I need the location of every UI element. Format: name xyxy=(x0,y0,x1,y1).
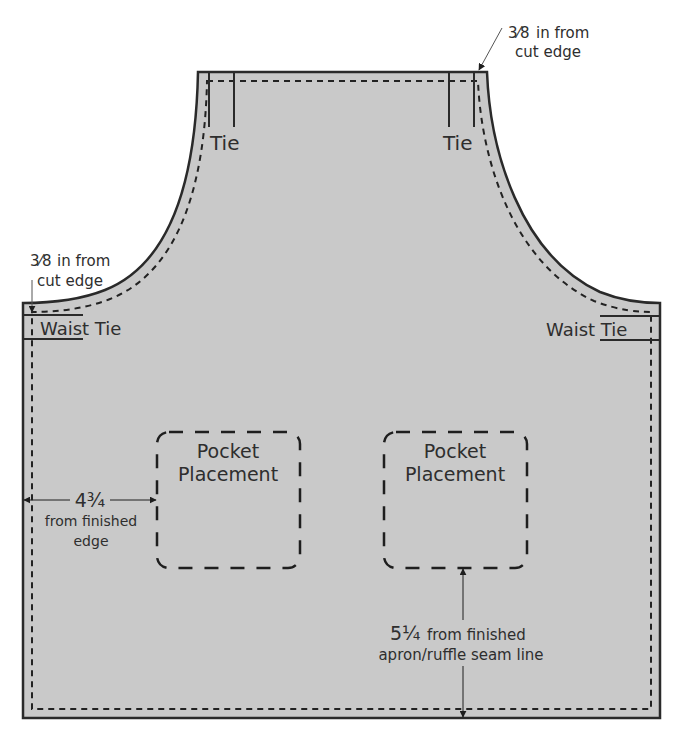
waist-tie-left-label: Waist Tie xyxy=(40,318,121,339)
seam-arrow-top-right xyxy=(479,28,502,70)
seam-fraction-top-right: 3⁄8 xyxy=(508,24,530,42)
side-measure-line2: edge xyxy=(74,533,109,549)
seam-fraction-left: 3⁄8 xyxy=(30,252,52,270)
seam-line1-left: in from xyxy=(57,252,110,270)
pocket-left-line2: Placement xyxy=(178,463,278,485)
waist-tie-right-label: Waist Tie xyxy=(546,319,627,340)
seam-line2-left: cut edge xyxy=(37,272,103,290)
side-measure-line1: from finished xyxy=(45,513,137,529)
bottom-measure-line1: from finished xyxy=(427,626,526,644)
apron-pattern-diagram: Tie Tie Waist Tie Waist Tie 3⁄8 in from … xyxy=(0,0,683,743)
tie-left-label: Tie xyxy=(209,131,239,155)
bottom-measure-value: 5¼ xyxy=(390,622,421,644)
apron-outline xyxy=(23,72,660,718)
pocket-right-line2: Placement xyxy=(405,463,505,485)
side-measure-value: 4¾ xyxy=(75,489,106,511)
pocket-right-line1: Pocket xyxy=(424,440,486,462)
tie-right-label: Tie xyxy=(442,131,472,155)
seam-line2-top-right: cut edge xyxy=(515,43,581,61)
seam-line1-top-right: in from xyxy=(536,24,589,42)
pocket-left-line1: Pocket xyxy=(197,440,259,462)
bottom-measure-line2: apron/ruffle seam line xyxy=(378,646,543,664)
